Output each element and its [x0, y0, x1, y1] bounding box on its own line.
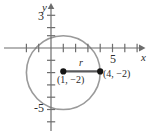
- x-axis-label: x: [141, 52, 146, 63]
- point-center-label: (1, −2): [57, 75, 84, 85]
- y-axis-arrow-icon: [48, 3, 55, 9]
- x-tick-label-5: 5: [110, 53, 116, 65]
- y-tick-label-3: 3: [38, 10, 44, 22]
- coordinate-plane-figure: y x 3 5 -5 r (1, −2) (4, −2): [0, 0, 152, 135]
- y-tick-label-minus5: -5: [34, 102, 44, 114]
- point-edge-label: (4, −2): [103, 69, 130, 79]
- radius-label: r: [79, 58, 83, 68]
